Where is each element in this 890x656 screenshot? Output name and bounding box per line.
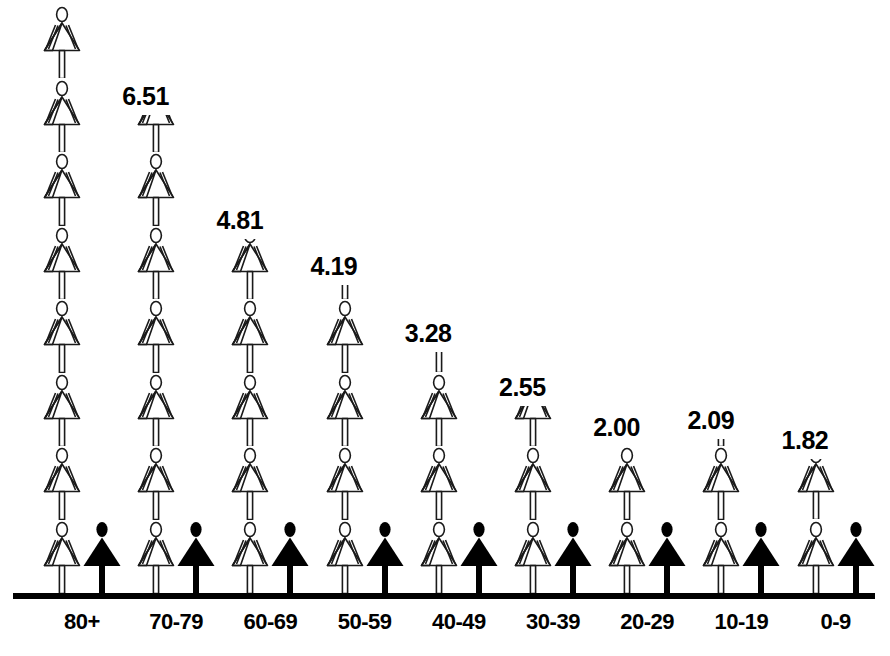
value-label: 1.82 — [782, 426, 829, 455]
pictogram-group: 1.82 — [0, 0, 890, 656]
category-label: 80+ — [32, 609, 132, 635]
category-label: 0-9 — [786, 609, 886, 635]
category-label: 60-69 — [220, 609, 320, 635]
pictogram-partial-unit-icon — [793, 459, 839, 519]
category-label: 20-29 — [597, 609, 697, 635]
female-figure-solid-icon — [833, 520, 879, 594]
reference-figure — [833, 520, 879, 594]
category-label: 40-49 — [409, 609, 509, 635]
female-figure-outline-icon — [793, 459, 839, 519]
pictogram-chart: 7.986.514.814.193.282.552.002.091.82 80+… — [0, 0, 890, 656]
category-label: 50-59 — [315, 609, 415, 635]
category-label: 10-19 — [691, 609, 791, 635]
category-label: 30-39 — [503, 609, 603, 635]
category-label: 70-79 — [126, 609, 226, 635]
